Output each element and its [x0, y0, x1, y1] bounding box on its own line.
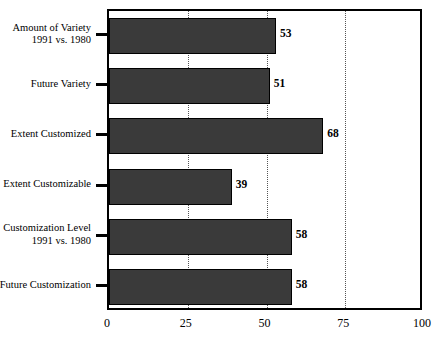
bar-value-label: 58: [296, 228, 308, 240]
y-axis-label-line: Future Customization: [0, 279, 91, 292]
y-axis-label: Future Customization: [0, 279, 91, 292]
bar-value-label: 58: [296, 278, 308, 290]
bar: [109, 219, 292, 255]
y-axis-label-line: Future Variety: [31, 78, 91, 91]
bar-value-label: 51: [274, 77, 286, 89]
bar: [109, 118, 323, 154]
horizontal-bar-chart: Amount of Variety1991 vs. 1980Future Var…: [0, 0, 433, 346]
bar: [109, 269, 292, 305]
bar-value-label: 53: [280, 27, 292, 39]
y-axis-tick: [96, 234, 108, 237]
y-axis-label-line: Customization Level: [3, 222, 91, 235]
y-axis-label-line: 1991 vs. 1980: [3, 235, 91, 248]
y-axis-tick: [96, 83, 108, 86]
bar-value-label: 68: [327, 127, 339, 139]
y-axis-label-line: 1991 vs. 1980: [12, 34, 91, 47]
x-axis-tick-label: 50: [259, 316, 271, 331]
bar: [109, 169, 232, 205]
x-axis-tick-label: 75: [337, 316, 349, 331]
y-axis-label: Extent Customized: [11, 128, 91, 141]
y-axis-label-line: Extent Customized: [11, 128, 91, 141]
y-axis-tick: [96, 284, 108, 287]
y-axis-label-line: Extent Customizable: [3, 178, 91, 191]
y-axis-label: Extent Customizable: [3, 178, 91, 191]
y-axis-tick: [96, 133, 108, 136]
bar: [109, 18, 276, 54]
x-axis-tick-label: 0: [104, 316, 110, 331]
bar: [109, 68, 270, 104]
gridline-75: [345, 11, 346, 308]
x-axis-tick-label: 100: [413, 316, 431, 331]
y-axis-label-line: Amount of Variety: [12, 22, 91, 35]
y-axis-tick: [96, 184, 108, 187]
plot-area: [107, 9, 422, 310]
y-axis-label: Customization Level1991 vs. 1980: [3, 222, 91, 247]
y-axis-label: Amount of Variety1991 vs. 1980: [12, 22, 91, 47]
y-axis-label: Future Variety: [31, 78, 91, 91]
y-axis-tick: [96, 33, 108, 36]
gridline-50: [267, 11, 268, 308]
bar-value-label: 39: [236, 178, 248, 190]
x-axis-tick-label: 25: [180, 316, 192, 331]
gridline-25: [188, 11, 189, 308]
